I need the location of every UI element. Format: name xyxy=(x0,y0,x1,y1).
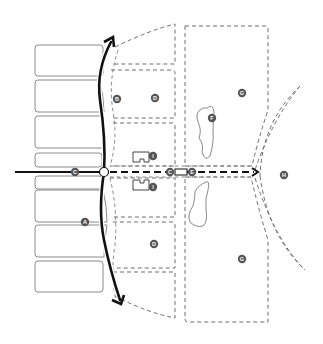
label-i-south: I xyxy=(149,183,157,191)
junction-node xyxy=(100,168,109,177)
route-edge-dash xyxy=(110,50,118,166)
label-g-north: G xyxy=(238,89,246,97)
gate-marker xyxy=(175,169,187,175)
label-d-north: D xyxy=(151,94,159,102)
building-block xyxy=(35,176,102,189)
label-b: B xyxy=(113,95,121,103)
svg-text:D: D xyxy=(153,95,157,101)
building-block xyxy=(35,190,107,222)
kiosk-south xyxy=(133,180,149,190)
svg-text:C: C xyxy=(168,169,172,175)
label-d-south: D xyxy=(150,240,158,248)
arc-outer xyxy=(260,86,300,176)
label-c-west: C xyxy=(71,168,79,176)
building-block xyxy=(35,225,107,257)
svg-text:B: B xyxy=(115,96,119,102)
svg-text:C: C xyxy=(73,169,77,175)
parcel-d-south xyxy=(113,222,175,268)
svg-text:E: E xyxy=(190,169,194,175)
svg-text:G: G xyxy=(240,256,244,262)
building-block xyxy=(35,80,104,112)
site-plan-diagram: A B C C D D E F G G H I I xyxy=(0,0,323,344)
arc-east xyxy=(255,86,305,270)
label-g-south: G xyxy=(238,255,246,263)
label-i-north: I xyxy=(149,152,157,160)
parcel-bottom-wedge xyxy=(113,272,175,318)
pond-south xyxy=(189,182,209,227)
buildings-left xyxy=(35,45,107,292)
kiosk-north xyxy=(133,152,149,162)
svg-text:G: G xyxy=(240,90,244,96)
label-h: H xyxy=(280,171,288,179)
building-block xyxy=(35,153,102,167)
svg-text:H: H xyxy=(282,172,286,178)
label-c-east: C xyxy=(166,168,174,176)
arrow-head-east-icon xyxy=(252,168,258,176)
svg-text:A: A xyxy=(83,219,87,225)
parcel-top-wedge xyxy=(113,24,175,64)
label-a: A xyxy=(81,218,89,226)
building-block xyxy=(35,116,105,148)
parcel-i-north xyxy=(110,123,175,166)
parcel-d-north xyxy=(111,70,175,118)
label-e: E xyxy=(188,168,196,176)
building-block xyxy=(35,45,103,76)
label-f: F xyxy=(208,114,216,122)
building-block xyxy=(35,261,103,292)
svg-text:D: D xyxy=(152,241,156,247)
east-west-axis xyxy=(15,166,258,177)
arc-outer-south xyxy=(260,176,305,270)
parcel-g-north xyxy=(185,26,268,166)
